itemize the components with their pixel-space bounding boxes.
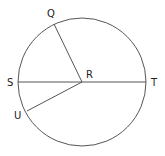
label-S: S [7, 77, 13, 88]
label-R: R [86, 69, 93, 80]
radius-RQ [54, 24, 82, 82]
circle-diagram: Q R S T U [0, 0, 165, 156]
label-U: U [14, 110, 21, 121]
label-Q: Q [47, 8, 55, 19]
label-T: T [150, 77, 158, 88]
radius-RU [27, 82, 82, 111]
